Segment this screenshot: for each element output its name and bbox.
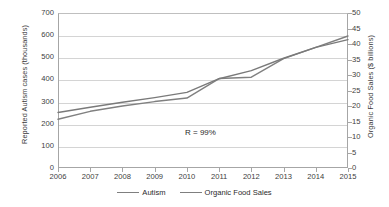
x-axis-tick-label: 2009 <box>137 172 173 181</box>
y-axis-left-tick-label: 200 <box>28 120 54 128</box>
y-axis-right-tick-label: 25 <box>352 87 374 95</box>
legend-item-autism[interactable]: Autism <box>117 188 165 197</box>
x-axis-tick-mark <box>90 168 91 172</box>
x-axis-tick-mark <box>187 168 188 172</box>
y-axis-right-tick-label: 0 <box>352 164 374 172</box>
y-axis-right-tick-mark <box>348 137 352 138</box>
y-axis-right-tick-mark <box>348 44 352 45</box>
x-axis-tick-label: 2012 <box>233 172 269 181</box>
x-axis-tick-mark <box>219 168 220 172</box>
y-axis-left-tick-label: 600 <box>28 31 54 39</box>
legend-line-icon-organic-food-sales <box>180 192 202 193</box>
y-axis-right-tick-mark <box>348 91 352 92</box>
x-axis-tick-mark <box>348 168 349 172</box>
y-axis-right-tick-mark <box>348 75 352 76</box>
y-axis-right-tick-label: 5 <box>352 149 374 157</box>
y-axis-left-tick-label: 0 <box>28 164 54 172</box>
x-axis-tick-mark <box>284 168 285 172</box>
y-axis-right-tick-mark <box>348 60 352 61</box>
x-axis-tick-label: 2015 <box>330 172 366 181</box>
x-axis-tick-label: 2014 <box>298 172 334 181</box>
x-axis-tick-mark <box>122 168 123 172</box>
chart-container: Reported Autism cases (thousands) Organi… <box>0 0 389 207</box>
y-axis-right-tick-label: 20 <box>352 102 374 110</box>
y-axis-left-tick-label: 300 <box>28 98 54 106</box>
series-line-organic-food-sales <box>58 40 348 113</box>
x-axis-tick-mark <box>316 168 317 172</box>
x-axis-tick-label: 2010 <box>169 172 205 181</box>
y-axis-left-tick-label: 400 <box>28 75 54 83</box>
correlation-annotation: R = 99% <box>185 128 216 137</box>
legend-label-autism: Autism <box>142 188 165 197</box>
x-axis-tick-label: 2007 <box>72 172 108 181</box>
y-axis-right-tick-label: 50 <box>352 9 374 17</box>
y-axis-right-tick-mark <box>348 13 352 14</box>
y-axis-right-tick-label: 45 <box>352 25 374 33</box>
legend-line-icon-autism <box>117 192 139 193</box>
y-axis-right-tick-mark <box>348 29 352 30</box>
y-axis-right-tick-mark <box>348 122 352 123</box>
y-axis-right-tick-label: 15 <box>352 118 374 126</box>
x-axis-tick-label: 2011 <box>201 172 237 181</box>
legend-label-organic-food-sales: Organic Food Sales <box>205 188 272 197</box>
x-axis-tick-mark <box>58 168 59 172</box>
x-axis-tick-mark <box>251 168 252 172</box>
y-axis-right-tick-label: 30 <box>352 71 374 79</box>
y-axis-right-tick-label: 10 <box>352 133 374 141</box>
x-axis-tick-label: 2008 <box>104 172 140 181</box>
x-axis-tick-label: 2006 <box>40 172 76 181</box>
y-axis-right-tick-label: 40 <box>352 40 374 48</box>
y-axis-left-tick-label: 100 <box>28 142 54 150</box>
y-axis-left-tick-label: 700 <box>28 9 54 17</box>
y-axis-right-tick-label: 35 <box>352 56 374 64</box>
series-line-autism <box>58 36 348 119</box>
chart-legend: Autism Organic Food Sales <box>0 188 389 197</box>
legend-item-organic-food-sales[interactable]: Organic Food Sales <box>180 188 272 197</box>
x-axis-tick-mark <box>155 168 156 172</box>
y-axis-right-tick-mark <box>348 106 352 107</box>
y-axis-left-tick-label: 500 <box>28 53 54 61</box>
x-axis-tick-label: 2013 <box>266 172 302 181</box>
y-axis-right-tick-mark <box>348 153 352 154</box>
